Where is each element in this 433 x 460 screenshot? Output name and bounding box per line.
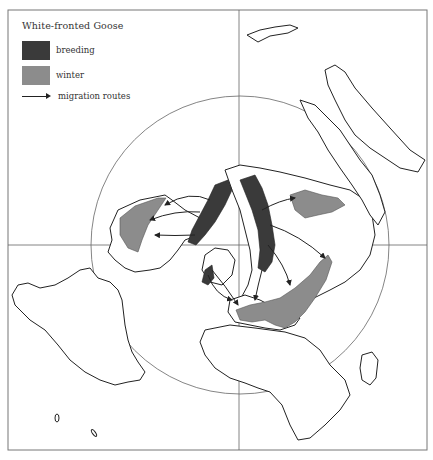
map-legend: White-fronted Goose breeding winter migr… xyxy=(22,20,192,106)
island xyxy=(90,429,97,437)
landmass-south-america xyxy=(12,268,145,385)
legend-item-breeding: breeding xyxy=(22,39,192,61)
legend-item-migration: migration routes xyxy=(22,89,192,103)
arrow-icon xyxy=(22,92,52,100)
island xyxy=(55,414,59,422)
legend-label-migration: migration routes xyxy=(58,91,130,101)
landmass-islands-top xyxy=(247,25,298,42)
legend-label-winter: winter xyxy=(56,70,84,80)
legend-item-winter: winter xyxy=(22,64,192,86)
legend-label-breeding: breeding xyxy=(56,45,95,55)
legend-title: White-fronted Goose xyxy=(22,20,192,31)
winter-swatch xyxy=(22,66,50,85)
landmass-madagascar xyxy=(360,352,378,385)
landmass-africa xyxy=(200,325,350,440)
breeding-swatch xyxy=(22,41,50,60)
migration-route xyxy=(155,235,195,236)
